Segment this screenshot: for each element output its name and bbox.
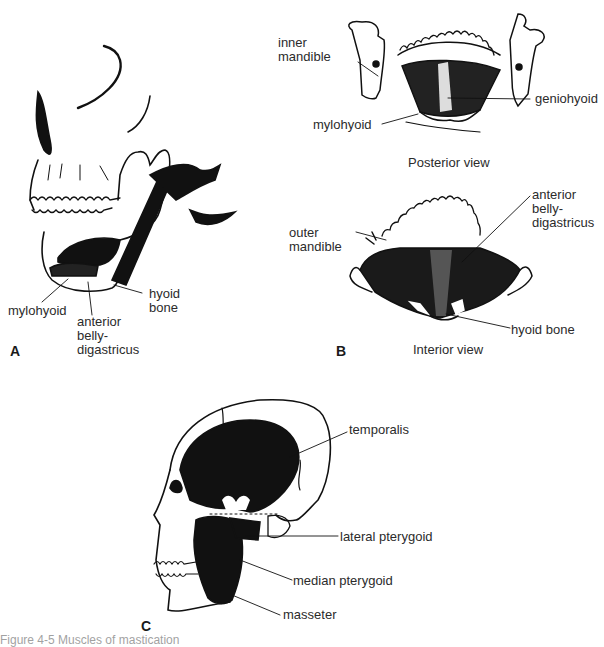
label-mylohyoid-b: mylohyoid <box>313 117 372 132</box>
panel-letter-c: C <box>141 618 151 634</box>
label-anterior-belly-b-2: belly- <box>532 201 563 216</box>
label-temporalis: temporalis <box>349 422 409 437</box>
label-mylohyoid-a: mylohyoid <box>8 303 67 318</box>
label-inner-mandible-1: inner <box>278 35 307 50</box>
label-anterior-belly-a-2: belly- <box>77 328 108 343</box>
label-inner-mandible-2: mandible <box>278 49 331 64</box>
panel-b-interior-illustration <box>350 196 532 328</box>
figure-caption-clipped: Figure 4-5 Muscles of mastication <box>0 633 179 647</box>
label-anterior-belly-b-1: anterior <box>532 187 576 202</box>
caption-posterior-view: Posterior view <box>408 155 490 170</box>
label-anterior-belly-a-3: digastricus <box>77 342 139 357</box>
label-masseter: masseter <box>283 607 336 622</box>
label-median-pterygoid: median pterygoid <box>293 573 393 588</box>
label-geniohyoid: geniohyoid <box>535 91 598 106</box>
panel-letter-a: A <box>10 343 20 359</box>
panel-b-posterior-illustration <box>349 14 544 132</box>
panel-letter-b: B <box>336 343 346 359</box>
caption-interior-view: Interior view <box>413 342 483 357</box>
label-outer-mandible-2: mandible <box>289 239 342 254</box>
label-outer-mandible-1: outer <box>289 225 319 240</box>
label-anterior-belly-b-3: digastricus <box>532 215 594 230</box>
label-hyoid-bone-a-1: hyoid <box>149 286 180 301</box>
label-hyoid-bone-a-2: bone <box>149 300 178 315</box>
panel-a-illustration <box>30 46 235 315</box>
label-hyoid-bone-b: hyoid bone <box>511 322 575 337</box>
label-anterior-belly-a-1: anterior <box>77 314 121 329</box>
label-lateral-pterygoid: lateral pterygoid <box>340 529 433 544</box>
